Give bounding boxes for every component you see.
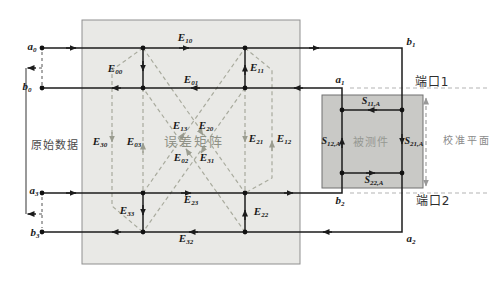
term-label-E23: E23 [184,194,198,207]
term-label-E21: E21 [249,133,263,146]
port2-caption: 端口2 [416,195,451,207]
term-label-E33: E33 [120,205,134,218]
term-label-E12: E12 [277,133,291,146]
sparam-label-S22: S22,A [365,175,384,187]
term-label-E32: E32 [179,233,193,246]
port1-caption: 端口1 [415,76,450,88]
term-label-E30: E30 [93,136,107,149]
node-label-b0: b0 [23,81,32,94]
term-label-E01: E01 [184,74,198,87]
term-label-E00: E00 [108,63,122,76]
term-label-E02: E02 [174,152,188,165]
node-label-a0: a0 [28,41,37,54]
term-label-E20: E20 [199,120,213,133]
term-label-E13: E13 [173,120,187,133]
term-label-E10: E10 [178,32,192,45]
dut-caption: 被测件 [353,137,389,148]
node-label-a3: a3 [30,185,39,198]
node-label-a2: a2 [407,233,416,246]
sparam-label-S11: S11,A [362,96,381,108]
error-matrix-caption: 误差矩阵 [164,135,224,148]
cal-plane-caption: 校准平面 [443,136,491,146]
node-label-b1: b1 [407,36,416,49]
node-label-b3: b3 [31,227,40,240]
node-label-a1: a1 [336,74,345,87]
term-label-E22: E22 [254,206,268,219]
raw-data-caption: 原始数据 [31,140,79,151]
term-label-E31: E31 [200,152,214,165]
error-model-flow-graph: a0 b0 a3 b3 b1 a1 b2 a2 E10 E00 E01 E11 … [0,0,494,283]
node-label-b2: b2 [336,195,345,208]
sparam-label-S12: S12,A [322,136,341,148]
sparam-label-S21: S21,A [405,136,424,148]
term-label-E11: E11 [250,62,264,75]
term-label-E03: E03 [127,136,141,149]
